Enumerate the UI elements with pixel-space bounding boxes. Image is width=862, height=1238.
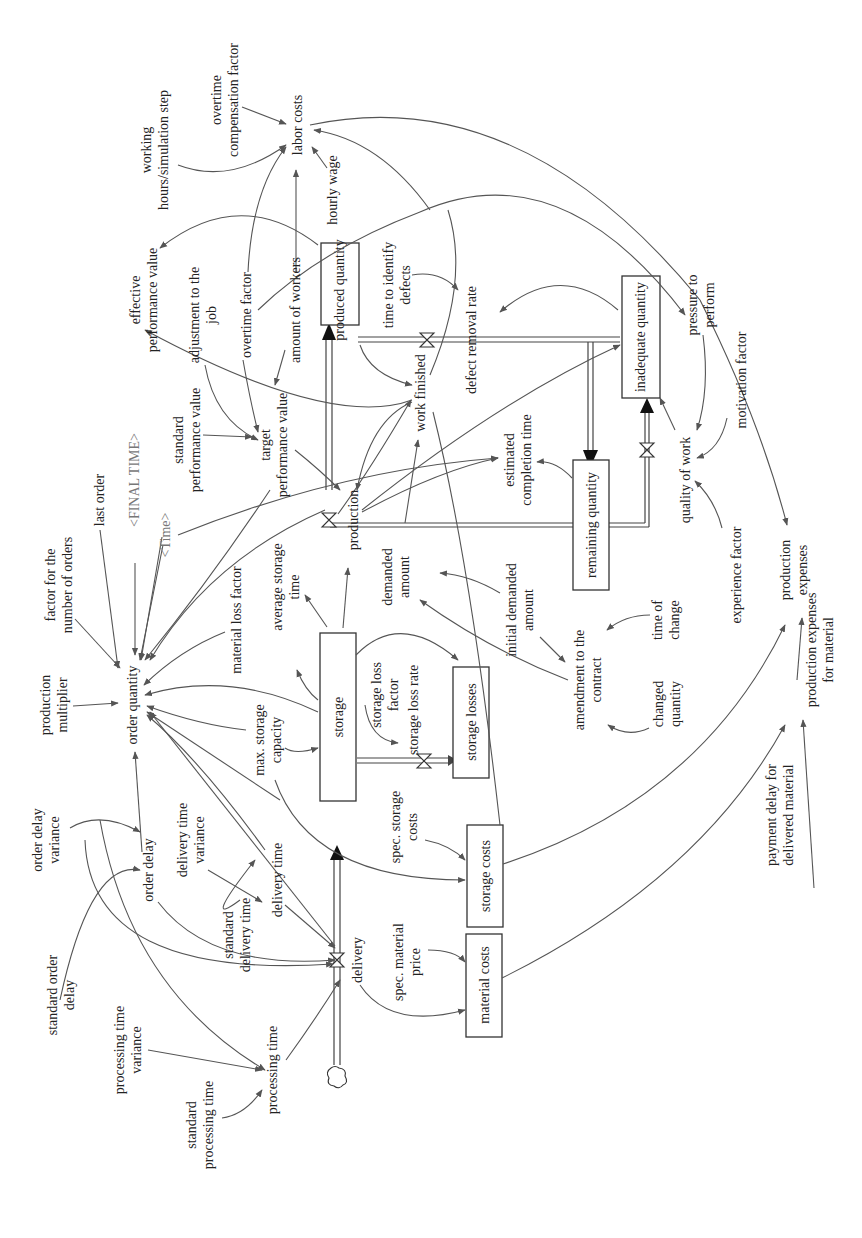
- var-processing-time[interactable]: processing time: [265, 1026, 280, 1114]
- var-spec-storage-costs[interactable]: spec. storage costs: [388, 791, 420, 863]
- flow-delivery[interactable]: delivery: [350, 937, 365, 983]
- var-processing-time-variance[interactable]: processing time variance: [112, 1006, 144, 1094]
- var-adjustment-to-the-job[interactable]: adjustment to the job: [187, 267, 219, 363]
- var-labor-costs[interactable]: labor costs: [290, 95, 305, 155]
- var-work-finished[interactable]: work finished: [413, 354, 428, 431]
- var-production-multiplier[interactable]: production multiplier: [38, 675, 70, 736]
- var-order-delay[interactable]: order delay: [141, 838, 156, 901]
- svg-text:pressure to: pressure to: [685, 274, 700, 335]
- svg-text:standard: standard: [171, 416, 186, 463]
- causal-links: [60, 107, 814, 1118]
- svg-text:factor for the: factor for the: [43, 548, 58, 621]
- var-production-expenses[interactable]: production expenses: [778, 540, 810, 601]
- svg-text:production: production: [346, 490, 361, 551]
- var-spec-material-price[interactable]: spec. material price: [391, 923, 423, 1001]
- svg-text:price: price: [408, 948, 423, 976]
- var-amount-of-workers[interactable]: amount of workers: [288, 257, 303, 363]
- var-time-to-identify-defects[interactable]: time to identify defects: [381, 242, 413, 328]
- svg-text:job: job: [204, 306, 219, 325]
- stock-inadequate-quantity[interactable]: inadequate quantity: [622, 276, 660, 398]
- var-target-performance-value[interactable]: target performance value: [258, 393, 290, 498]
- svg-text:motivation factor: motivation factor: [734, 331, 749, 428]
- svg-text:overtime factor: overtime factor: [239, 272, 254, 358]
- svg-text:order quantity: order quantity: [125, 666, 140, 745]
- var-estimated-completion-time[interactable]: estimated completion time: [502, 414, 534, 505]
- svg-text:production: production: [778, 540, 793, 601]
- var-delivery-time[interactable]: delivery time: [270, 843, 285, 917]
- var-production-expenses-for-material[interactable]: production expenses for material: [804, 593, 836, 708]
- svg-text:standard order: standard order: [45, 954, 60, 1035]
- svg-text:factor: factor: [386, 678, 401, 711]
- var-overtime-factor[interactable]: overtime factor: [239, 272, 254, 358]
- svg-text:compensation factor: compensation factor: [226, 43, 241, 157]
- svg-text:demanded: demanded: [380, 548, 395, 606]
- svg-text:effective: effective: [128, 276, 143, 325]
- var-time-of-change[interactable]: time of change: [650, 600, 682, 640]
- svg-text:order delay: order delay: [141, 838, 156, 901]
- flow-storage-loss-rate[interactable]: storage loss rate: [406, 665, 421, 755]
- svg-text:max. storage: max. storage: [252, 704, 267, 776]
- valve-production-icon: [322, 513, 336, 527]
- var-experience-factor[interactable]: experience factor: [729, 526, 744, 623]
- var-initial-demanded-amount[interactable]: initial demanded amount: [504, 563, 536, 657]
- svg-text:processing time: processing time: [112, 1006, 127, 1094]
- var-last-order[interactable]: last order: [92, 473, 107, 526]
- svg-text:number of orders: number of orders: [60, 537, 75, 633]
- svg-text:time to identify: time to identify: [381, 242, 396, 328]
- var-storage-loss-factor[interactable]: storage loss factor: [369, 662, 401, 728]
- var-material-loss-factor[interactable]: material loss factor: [229, 566, 244, 674]
- svg-text:average storage: average storage: [270, 543, 285, 630]
- var-overtime-compensation-factor[interactable]: overtime compensation factor: [209, 43, 241, 157]
- svg-text:production expenses: production expenses: [804, 593, 819, 708]
- var-motivation-factor[interactable]: motivation factor: [734, 331, 749, 428]
- var-factor-for-number-of-orders[interactable]: factor for the number of orders: [43, 537, 75, 633]
- stock-produced-quantity[interactable]: produced quantity: [321, 239, 359, 340]
- svg-text:amendment to the: amendment to the: [572, 630, 587, 730]
- svg-text:delivered material: delivered material: [781, 764, 796, 866]
- svg-text:processing time: processing time: [201, 1081, 216, 1169]
- svg-text:delay: delay: [62, 980, 77, 1010]
- svg-text:material costs: material costs: [477, 946, 492, 1023]
- var-quality-of-work[interactable]: quality of work: [678, 437, 693, 523]
- var-order-delay-variance[interactable]: order delay variance: [30, 808, 62, 871]
- var-standard-processing-time[interactable]: standard processing time: [184, 1081, 216, 1169]
- flow-production[interactable]: production: [346, 490, 361, 551]
- svg-text:variance: variance: [129, 1026, 144, 1073]
- var-time[interactable]: <Time>: [158, 512, 173, 557]
- stock-material-costs[interactable]: material costs: [466, 934, 502, 1037]
- flow-defect-removal-rate[interactable]: defect removal rate: [464, 286, 479, 394]
- svg-text:quality of work: quality of work: [678, 437, 693, 523]
- var-standard-performance-value[interactable]: standard performance value: [171, 388, 203, 493]
- var-final-time[interactable]: <FINAL TIME>: [127, 433, 142, 527]
- stock-storage-losses[interactable]: storage losses: [453, 667, 489, 778]
- var-demanded-amount[interactable]: demanded amount: [380, 548, 412, 606]
- valve-inadequate-icon: [640, 443, 654, 457]
- svg-text:spec. material: spec. material: [391, 923, 406, 1001]
- var-changed-quantity[interactable]: changed quantity: [651, 681, 683, 728]
- svg-text:multiplier: multiplier: [55, 677, 70, 733]
- stock-storage-costs[interactable]: storage costs: [467, 825, 503, 927]
- svg-text:delivery time: delivery time: [175, 803, 190, 877]
- stock-storage[interactable]: storage: [320, 633, 356, 801]
- var-hourly-wage[interactable]: hourly wage: [325, 155, 340, 225]
- var-max-storage-capacity[interactable]: max. storage capacity: [252, 704, 284, 776]
- svg-text:estimated: estimated: [502, 433, 517, 487]
- svg-text:processing time: processing time: [265, 1026, 280, 1114]
- svg-text:delivery: delivery: [350, 937, 365, 983]
- svg-text:hourly wage: hourly wage: [325, 155, 340, 225]
- var-average-storage-time[interactable]: average storage time: [270, 543, 302, 630]
- var-pressure-to-perform[interactable]: pressure to perform: [685, 274, 717, 335]
- svg-text:remaining quantity: remaining quantity: [584, 472, 599, 578]
- var-delivery-time-variance[interactable]: delivery time variance: [175, 803, 207, 877]
- var-effective-performance-value[interactable]: effective performance value: [128, 248, 160, 353]
- svg-text:spec. storage: spec. storage: [388, 791, 403, 863]
- var-working-hours[interactable]: working hours/simulation step: [139, 90, 171, 210]
- var-payment-delay[interactable]: payment delay for delivered material: [764, 764, 796, 866]
- svg-text:work finished: work finished: [413, 354, 428, 431]
- var-amendment-to-the-contract[interactable]: amendment to the contract: [572, 630, 604, 730]
- svg-text:perform: perform: [702, 282, 717, 327]
- stock-remaining-quantity[interactable]: remaining quantity: [573, 460, 609, 590]
- svg-text:working: working: [139, 127, 154, 174]
- var-order-quantity[interactable]: order quantity: [125, 666, 140, 745]
- svg-text:last order: last order: [92, 473, 107, 526]
